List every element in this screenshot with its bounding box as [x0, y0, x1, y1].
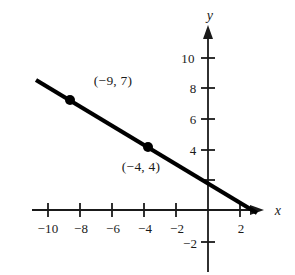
x-tick-label--10: −10 — [38, 222, 59, 235]
x-axis-label: x — [275, 204, 281, 218]
y-axis-label: y — [207, 9, 213, 23]
y-tick-label-8: 8 — [190, 82, 197, 95]
x-tick-label--2: −2 — [170, 222, 184, 235]
x-tick-label--6: −6 — [106, 222, 120, 235]
point-label-neg9-7: (−9, 7) — [94, 74, 132, 88]
y-tick-label-6: 6 — [190, 113, 197, 126]
y-axis-arrowhead — [203, 25, 213, 39]
y-tick-label--2: −2 — [183, 237, 197, 250]
data-point-marker-1 — [65, 95, 75, 105]
data-point-marker-2 — [143, 142, 153, 152]
point-label-neg4-4: (−4, 4) — [122, 160, 160, 174]
y-tick-label-4: 4 — [190, 144, 197, 157]
y-tick-label-10: 10 — [181, 52, 194, 65]
coordinate-plane-figure: y x 10 8 6 4 −2 −10 −8 −6 −4 −2 2 (−9, 7… — [0, 0, 295, 275]
x-tick-label--4: −4 — [138, 222, 152, 235]
x-tick-label-2: 2 — [238, 222, 245, 235]
x-tick-label--8: −8 — [74, 222, 88, 235]
